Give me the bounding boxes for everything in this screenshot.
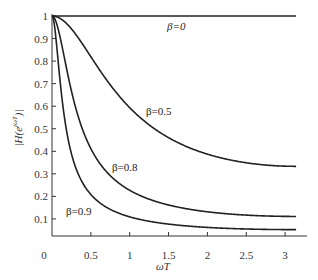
y-tick-label: 0.6 xyxy=(34,100,48,112)
y-tick-label: 0.3 xyxy=(34,168,48,180)
axes xyxy=(52,14,307,236)
curve-β=0.8 xyxy=(52,16,296,216)
y-tick-label: 0.2 xyxy=(34,190,48,202)
y-tick-label: 0.4 xyxy=(34,145,48,157)
beta-05-label: β=0.5 xyxy=(146,105,172,117)
x-tick-label: 1 xyxy=(127,249,133,261)
y-axis-label: |H(ejωT)| xyxy=(11,110,25,147)
curves xyxy=(52,16,296,230)
x-axis-label: ωT xyxy=(156,260,171,272)
y-tick-label: 1 xyxy=(43,10,49,22)
x-tick-label: 3 xyxy=(282,249,288,261)
y-tick-label: 0.1 xyxy=(34,213,48,225)
beta-09-label: β=0.9 xyxy=(66,205,92,217)
curve-β=0.9 xyxy=(52,16,296,230)
y-axis-label-main: |H(e xyxy=(12,127,25,147)
y-tick-label: 0.5 xyxy=(34,123,48,135)
y-ticks: 0.10.20.30.40.50.60.70.80.91 xyxy=(34,10,56,225)
y-tick-label: 0.7 xyxy=(34,78,48,90)
beta-08-label: β=0.8 xyxy=(112,161,138,173)
origin-label: 0 xyxy=(41,249,47,261)
magnitude-response-chart: 0.10.20.30.40.50.60.70.80.91 0.511.522.5… xyxy=(0,0,318,280)
x-tick-label: 2.5 xyxy=(239,249,253,261)
y-axis-label-tail: )| xyxy=(12,110,25,118)
x-tick-label: 2 xyxy=(205,249,211,261)
x-tick-label: 0.5 xyxy=(84,249,98,261)
svg-text:|H(ejωT)|: |H(ejωT)| xyxy=(11,110,25,147)
beta-0-label: β=0 xyxy=(166,20,186,32)
y-tick-label: 0.8 xyxy=(34,55,48,67)
y-tick-label: 0.9 xyxy=(34,33,48,45)
